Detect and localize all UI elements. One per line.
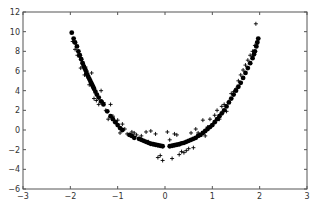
x-tick-label: −2 [64, 192, 76, 201]
y-tick-label: −2 [8, 146, 20, 155]
x-tick-label: 1 [210, 192, 215, 201]
y-tick-label: 6 [15, 67, 20, 76]
fit-point [69, 30, 74, 35]
fit-point [160, 144, 165, 149]
fit-point [241, 75, 246, 80]
y-tick-label: 0 [15, 126, 20, 135]
fit-point [248, 61, 253, 66]
y-tick-label: 2 [15, 106, 20, 115]
y-tick-label: −4 [8, 165, 20, 174]
fit-point [132, 135, 137, 140]
x-tick-label: −1 [112, 192, 124, 201]
fit-point [256, 36, 261, 41]
y-tick-label: 4 [15, 87, 20, 96]
x-tick-label: 0 [162, 192, 167, 201]
scatter-chart: −6−4−2024681012 −3−2−10123 [0, 0, 316, 213]
plot-area [23, 12, 307, 189]
fit-point [245, 66, 250, 71]
y-tick-label: 8 [15, 47, 20, 56]
x-tick-label: −3 [17, 192, 29, 201]
y-tick-label: 12 [10, 8, 20, 17]
fit-point [120, 128, 125, 133]
fit-point [243, 71, 248, 76]
y-tick-label: 10 [10, 28, 20, 37]
x-tick-label: 3 [304, 192, 309, 201]
x-tick-label: 2 [257, 192, 262, 201]
